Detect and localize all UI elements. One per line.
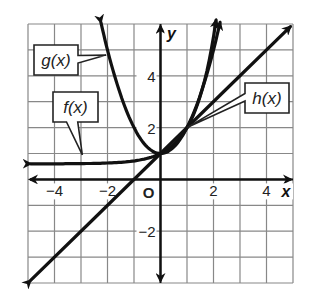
svg-text:h(x): h(x) (252, 89, 281, 108)
svg-text:f(x): f(x) (63, 98, 88, 117)
y-tick-label: 2 (147, 120, 155, 137)
x-axis-label: x (281, 183, 292, 200)
function-graph: −4−22442−2Oxy g(x)f(x)h(x) (0, 0, 313, 301)
y-tick-label: 4 (147, 68, 155, 85)
origin-label: O (143, 184, 155, 201)
f-label-callout: f(x) (53, 92, 98, 155)
y-tick-label: −2 (138, 223, 155, 240)
x-tick-label: 4 (262, 182, 270, 199)
y-axis-label: y (166, 25, 177, 42)
x-tick-label: 2 (209, 182, 217, 199)
x-tick-label: −4 (46, 182, 63, 199)
svg-text:g(x): g(x) (41, 51, 70, 70)
x-tick-label: −2 (99, 182, 116, 199)
